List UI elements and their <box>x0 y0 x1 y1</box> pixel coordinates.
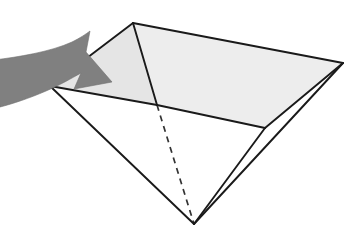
folding-diagram-figure: Folding diagram Line drawing of an open … <box>0 0 360 239</box>
folding-diagram-canvas <box>0 0 360 239</box>
